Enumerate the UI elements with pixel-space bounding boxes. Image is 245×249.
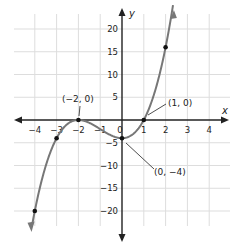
graph-figure: yx−4−3−2−1012342015105−5−10−15−20(−2, 0)… — [0, 0, 245, 249]
x-tick-label: −2 — [72, 125, 85, 135]
data-point — [163, 45, 168, 50]
y-tick-label: 5 — [113, 92, 118, 102]
annotation-pointer — [79, 106, 80, 116]
curve-down-arrow-icon — [28, 221, 35, 231]
annotation-label: (0, −4) — [154, 167, 186, 177]
data-point — [76, 118, 81, 123]
x-axis-label: x — [221, 105, 228, 116]
data-point — [120, 136, 125, 141]
x-tick-label: 0 — [117, 125, 122, 135]
y-tick-label: 15 — [107, 47, 118, 57]
x-tick-label: 2 — [163, 125, 168, 135]
y-tick-label: 10 — [107, 70, 118, 80]
x-axis-right-arrow-icon — [221, 117, 229, 124]
y-tick-label: −5 — [105, 138, 118, 148]
x-tick-label: −4 — [29, 125, 42, 135]
annotation-label: (1, 0) — [168, 98, 192, 108]
x-tick-label: 1 — [141, 125, 146, 135]
x-tick-label: 3 — [185, 125, 190, 135]
y-axis-label: y — [128, 8, 136, 19]
x-axis-left-arrow-icon — [14, 117, 22, 124]
data-point — [142, 118, 147, 123]
y-axis-down-arrow-icon — [119, 234, 126, 242]
data-point — [54, 136, 59, 141]
data-point — [33, 209, 38, 214]
y-tick-label: −15 — [100, 183, 118, 193]
cubic-function-plot: yx−4−3−2−1012342015105−5−10−15−20(−2, 0)… — [0, 0, 245, 249]
x-tick-label: 4 — [206, 125, 211, 135]
y-tick-label: −20 — [100, 206, 118, 216]
y-tick-label: 20 — [107, 24, 118, 34]
y-tick-label: −10 — [100, 161, 118, 171]
annotation-label: (−2, 0) — [62, 94, 94, 104]
y-axis-up-arrow-icon — [119, 8, 126, 16]
